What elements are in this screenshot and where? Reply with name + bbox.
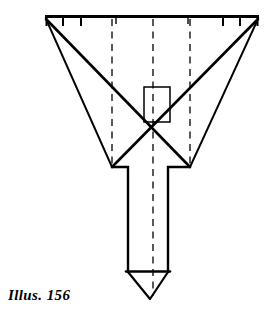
drawing-background — [0, 0, 273, 327]
technical-drawing — [0, 0, 273, 327]
figure-caption: Illus. 156 — [8, 287, 70, 304]
figure-container: Illus. 156 — [0, 0, 273, 327]
